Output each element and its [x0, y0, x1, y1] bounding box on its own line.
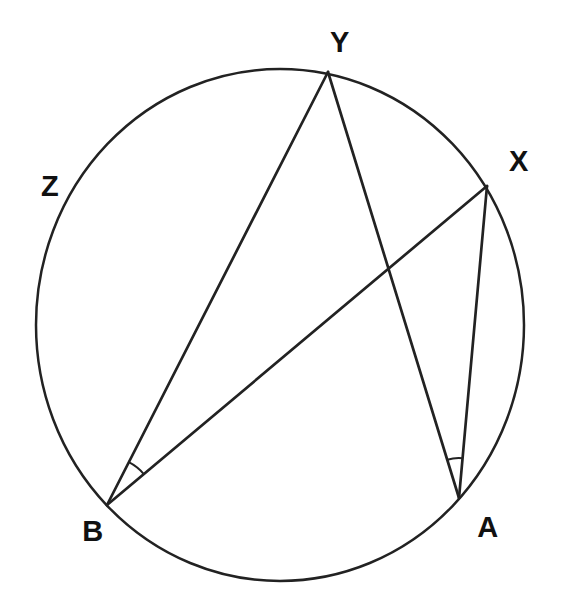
- angle-mark-A: [447, 458, 462, 460]
- point-label-X: X: [509, 145, 529, 177]
- chord-BY: [107, 72, 328, 505]
- point-label-B: B: [82, 515, 103, 547]
- point-label-A: A: [477, 511, 498, 543]
- chord-BX: [107, 186, 487, 505]
- chord-AY: [328, 72, 459, 498]
- point-label-Z: Z: [41, 170, 59, 202]
- geometry-figure: YXZBA: [0, 0, 561, 612]
- angle-mark-B: [129, 462, 144, 474]
- geometry-diagram: YXZBA: [0, 0, 561, 612]
- chord-AX: [459, 186, 487, 498]
- point-label-Y: Y: [330, 26, 350, 58]
